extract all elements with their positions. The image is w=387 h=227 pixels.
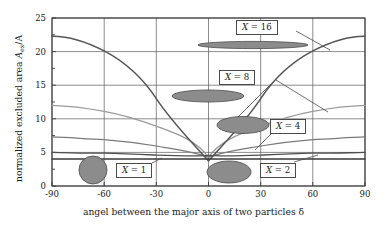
x-tick-label-90: 90 [351, 189, 379, 199]
y-axis-title: normalized excluded area Aex/A [13, 35, 25, 182]
y-tick-label-20: 20 [24, 47, 46, 57]
y-axis-title-subscript: ex [18, 45, 25, 52]
x-tick-label-60: 60 [299, 189, 327, 199]
callout-x1-eq: = [128, 165, 141, 175]
callout-x2[interactable]: X = 2 [260, 163, 296, 178]
callout-x1[interactable]: X = 1 [116, 163, 152, 178]
x-tick-label-neg60: -60 [90, 189, 118, 199]
callout-x2-value: 2 [285, 165, 290, 175]
y-axis-title-var: A [13, 52, 24, 59]
x-axis-title: angel between the major axis of two part… [0, 206, 387, 217]
callout-x2-eq: = [272, 165, 285, 175]
x-tick-label-neg90: -90 [38, 189, 66, 199]
x-tick-label-0: 0 [195, 189, 223, 199]
y-axis-title-text: normalized excluded area [13, 59, 24, 182]
y-tick-label-10: 10 [24, 114, 46, 124]
y-tick-label-15: 15 [24, 80, 46, 90]
particle-circle-x1 [79, 156, 107, 184]
particle-ellipse-x8 [172, 90, 244, 102]
callout-x4[interactable]: X = 4 [270, 119, 306, 134]
callout-x8-value: 8 [244, 72, 249, 82]
y-tick-label-25: 25 [24, 13, 46, 23]
callout-x1-value: 1 [141, 165, 146, 175]
particle-ellipse-x2 [207, 161, 251, 183]
y-tick-label-5: 5 [24, 147, 46, 157]
callout-x16[interactable]: X = 16 [236, 20, 278, 35]
callout-x16-eq: = [248, 22, 261, 32]
excluded-area-chart-figure: 25 20 15 10 5 0 -90 -60 -30 0 30 60 90 a… [0, 0, 387, 227]
callout-x8[interactable]: X = 8 [219, 70, 255, 85]
particle-ellipse-x16 [198, 41, 308, 48]
y-axis-title-tail: /A [13, 35, 24, 45]
callout-x4-value: 4 [295, 121, 300, 131]
callout-x16-value: 16 [261, 22, 272, 32]
callout-x4-eq: = [282, 121, 295, 131]
callout-x8-eq: = [231, 72, 244, 82]
x-tick-label-neg30: -30 [142, 189, 170, 199]
x-tick-label-30: 30 [247, 189, 275, 199]
particle-ellipse-x4 [217, 117, 269, 134]
